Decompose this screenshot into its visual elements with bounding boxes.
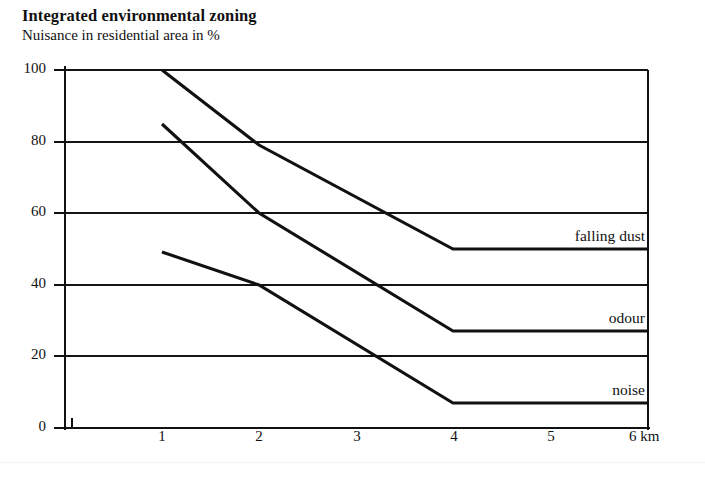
x-axis-label-5: 5 <box>531 428 571 445</box>
y-axis-label-20: 20 <box>2 346 46 363</box>
scan-artifact <box>0 462 705 463</box>
y-axis-label-80: 80 <box>2 132 46 149</box>
y-axis-label-100: 100 <box>2 60 46 77</box>
gridlines <box>65 70 648 356</box>
series-label-falling-dust: falling dust <box>575 227 645 245</box>
series-label-odour: odour <box>609 309 645 327</box>
y-axis-ticks <box>54 70 65 428</box>
y-axis-label-60: 60 <box>2 203 46 220</box>
y-axis-label-40: 40 <box>2 275 46 292</box>
series-label-noise: noise <box>612 381 645 399</box>
x-axis-label-2: 2 <box>239 428 279 445</box>
series-line-noise <box>162 252 648 403</box>
x-axis-label-3: 3 <box>337 428 377 445</box>
x-axis-ticks <box>72 418 648 428</box>
x-axis-label-1: 1 <box>142 428 182 445</box>
y-axis-label-0: 0 <box>2 418 46 435</box>
series-line-falling-dust <box>162 70 648 249</box>
x-axis-label-6-km: 6 km <box>629 428 699 445</box>
x-axis-label-4: 4 <box>434 428 474 445</box>
chart-figure: Integrated environmental zoning Nuisance… <box>0 0 705 484</box>
